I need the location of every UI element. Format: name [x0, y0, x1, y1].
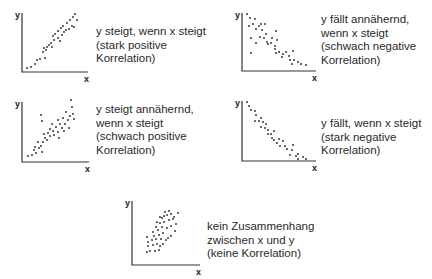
data-point — [156, 243, 158, 245]
data-point — [154, 250, 156, 252]
data-point — [159, 245, 161, 247]
data-point — [177, 212, 179, 214]
y-axis-label: y — [125, 198, 130, 208]
data-point — [173, 216, 175, 218]
data-point — [152, 244, 154, 246]
data-point — [159, 216, 161, 218]
data-point — [170, 213, 172, 215]
data-point — [164, 211, 166, 213]
data-point — [161, 217, 163, 219]
data-point — [167, 237, 169, 239]
data-point — [147, 241, 149, 243]
data-point — [163, 215, 165, 217]
data-point — [151, 239, 153, 241]
data-point — [146, 251, 148, 253]
caption-line: kein Zusammenhang — [207, 220, 314, 234]
data-point — [165, 239, 167, 241]
caption-line: (keine Korrelation) — [207, 247, 314, 261]
data-point — [170, 235, 172, 237]
data-point — [172, 218, 174, 220]
axis-lines — [132, 201, 200, 265]
data-point — [156, 221, 158, 223]
data-point — [166, 214, 168, 216]
data-point — [155, 238, 157, 240]
data-point — [149, 250, 151, 252]
data-point — [157, 229, 159, 231]
data-point — [152, 231, 154, 233]
data-point — [147, 245, 149, 247]
data-point — [166, 227, 168, 229]
caption-line: zwischen x und y — [207, 234, 314, 248]
data-point — [162, 232, 164, 234]
caption-no-correlation: kein Zusammenhang zwischen x und y (kein… — [207, 220, 314, 261]
data-point — [161, 226, 163, 228]
data-point — [175, 223, 177, 225]
data-point — [163, 221, 165, 223]
data-point — [168, 219, 170, 221]
data-point — [168, 210, 170, 212]
data-point — [159, 222, 161, 224]
data-point — [160, 238, 162, 240]
data-point — [174, 230, 176, 232]
data-point — [155, 226, 157, 228]
x-axis-label: x — [196, 267, 201, 277]
data-point — [146, 236, 148, 238]
data-point — [162, 243, 164, 245]
data-point — [158, 234, 160, 236]
data-point — [158, 249, 160, 251]
data-point — [153, 235, 155, 237]
data-point — [170, 225, 172, 227]
